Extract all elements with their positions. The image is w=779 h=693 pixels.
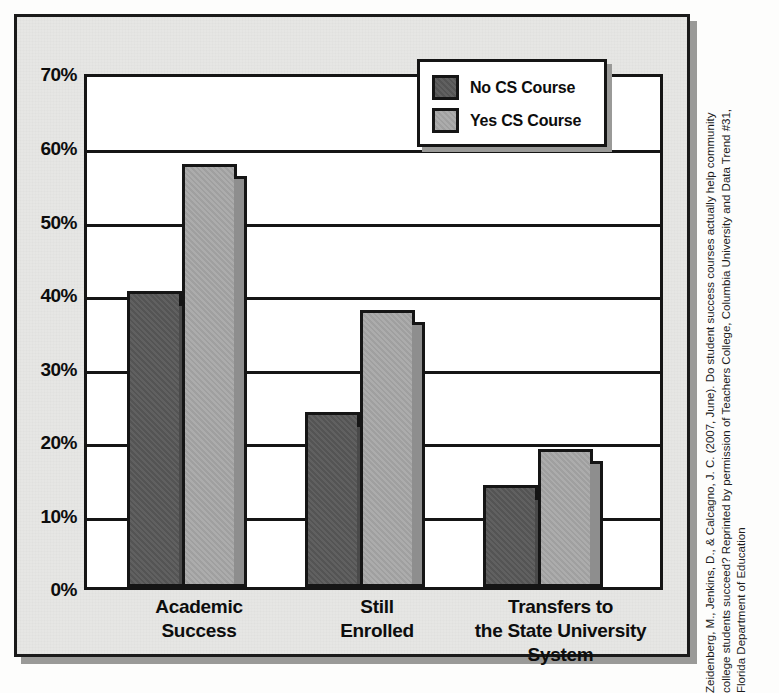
y-tick-50: 50%: [17, 213, 77, 232]
x-label-line: Enrolled: [296, 619, 458, 643]
bar-still-enrolled-yes-cs[interactable]: [360, 310, 415, 587]
bar-transfers-no-cs[interactable]: [483, 485, 538, 587]
x-label-line: Transfers to: [458, 595, 663, 619]
y-tick-60: 60%: [17, 139, 77, 158]
bar-still-enrolled-no-cs[interactable]: [305, 412, 360, 587]
x-label-transfers: Transfers to the State University System: [458, 595, 663, 667]
x-label-still-enrolled: Still Enrolled: [296, 595, 458, 643]
citation-line-1: Zeidenberg, M., Jenkins, D., & Calcagno,…: [703, 0, 719, 693]
bar-transfers-yes-cs[interactable]: [538, 449, 593, 587]
legend-swatch-icon: [432, 108, 459, 133]
bar-side-face: [412, 322, 425, 587]
bar-group-academic-success: [127, 77, 277, 587]
chart-legend: No CS Course Yes CS Course: [417, 59, 607, 147]
bar-group-still-enrolled: [305, 77, 455, 587]
y-tick-0: 0%: [17, 580, 77, 599]
legend-label: No CS Course: [470, 79, 575, 97]
y-tick-40: 40%: [17, 286, 77, 305]
y-tick-20: 20%: [17, 433, 77, 452]
bar-side-face: [590, 461, 603, 587]
plot-area: [84, 74, 663, 590]
x-label-line: Still: [296, 595, 458, 619]
citation-line-3: Florida Department of Education: [734, 0, 750, 693]
bar-academic-success-yes-cs[interactable]: [182, 164, 237, 587]
x-axis: Academic Success Still Enrolled Transfer…: [84, 595, 663, 693]
x-label-line: Success: [118, 619, 280, 643]
chart-figure-frame: 70% 60% 50% 40% 30% 20% 10% 0%: [14, 14, 690, 657]
source-citation: Zeidenberg, M., Jenkins, D., & Calcagno,…: [703, 0, 775, 693]
legend-item-yes-cs-course[interactable]: Yes CS Course: [432, 104, 604, 137]
y-axis: 70% 60% 50% 40% 30% 20% 10% 0%: [17, 74, 81, 590]
x-label-academic-success: Academic Success: [118, 595, 280, 643]
bar-side-face: [234, 176, 247, 587]
legend-label: Yes CS Course: [470, 112, 581, 130]
y-tick-10: 10%: [17, 507, 77, 526]
x-label-line: System: [458, 643, 663, 667]
y-tick-30: 30%: [17, 360, 77, 379]
x-label-line: Academic: [118, 595, 280, 619]
bar-group-transfers: [483, 77, 633, 587]
legend-item-no-cs-course[interactable]: No CS Course: [432, 71, 604, 104]
x-label-line: the State University: [458, 619, 663, 643]
citation-line-2: college students succeed? Reprinted by p…: [719, 0, 735, 693]
legend-swatch-icon: [432, 75, 459, 100]
y-tick-70: 70%: [17, 65, 77, 84]
bar-academic-success-no-cs[interactable]: [127, 291, 182, 587]
